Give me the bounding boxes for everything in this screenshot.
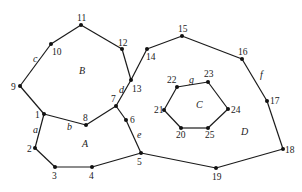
edge-label-g: g [189,74,194,85]
node-label-10: 10 [52,47,62,57]
region-label-b: B [79,65,85,76]
node-15 [180,34,184,38]
node-23 [206,80,210,84]
node-6 [124,118,128,122]
edge-9-10 [20,44,51,86]
edge-10-11 [51,25,81,44]
node-24 [226,107,230,111]
edge-4-5 [92,153,141,167]
region-label-c: C [196,99,203,110]
node-5 [139,151,143,155]
edge-1-9 [20,86,44,114]
node-label-4: 4 [89,171,94,181]
planar-graph-diagram: 1234567891011121314151617181920212223242… [0,0,302,192]
node-label-13: 13 [132,84,142,94]
node-label-25: 25 [205,130,215,140]
edge-2-3 [35,148,55,167]
edge-24-25 [208,109,228,128]
node-label-21: 21 [154,105,164,115]
node-label-8: 8 [83,113,88,123]
edge-label-c: c [33,53,38,64]
region-label-d: D [240,126,249,137]
graph-nodes [18,23,285,170]
node-label-9: 9 [11,82,16,92]
edge-21-22 [164,87,177,110]
node-label-16: 16 [238,47,248,57]
node-8 [84,123,88,127]
edge-label-e: e [137,129,142,140]
edge-16-17 [242,59,267,101]
edge-7-8 [86,106,116,125]
node-label-24: 24 [231,105,241,115]
node-label-5: 5 [137,157,142,167]
node-17 [265,99,269,103]
node-3 [53,165,57,169]
node-label-7: 7 [111,94,116,104]
node-label-18: 18 [285,145,295,155]
node-7 [114,104,118,108]
node-11 [79,23,83,27]
node-4 [90,165,94,169]
edge-label-f: f [260,69,264,80]
node-2 [33,146,37,150]
node-1 [42,112,46,116]
node-label-23: 23 [204,69,214,79]
region-labels: ABCD [79,65,249,149]
edge-23-24 [208,82,228,109]
node-label-3: 3 [52,171,57,181]
node-16 [240,57,244,61]
edge-label-d: d [119,84,125,95]
edge-labels: abcdefg [33,53,264,140]
node-labels: 1234567891011121314151617181920212223242… [11,13,295,182]
node-label-20: 20 [176,130,186,140]
edge-label-a: a [33,124,38,135]
node-22 [175,85,179,89]
edge-label-b: b [67,121,72,132]
region-label-a: A [81,138,89,149]
node-19 [214,166,218,170]
node-label-1: 1 [35,110,40,120]
edge-12-13 [122,49,131,80]
edge-11-12 [81,25,122,49]
edge-17-18 [267,101,283,149]
edge-6-7 [116,106,126,120]
node-9 [18,84,22,88]
edge-18-19 [216,149,283,168]
node-label-15: 15 [178,24,188,34]
node-label-14: 14 [146,52,156,62]
node-13 [129,78,133,82]
edge-15-16 [182,36,242,59]
node-label-22: 22 [167,75,177,85]
edge-8-1 [44,114,86,125]
node-label-11: 11 [77,13,86,23]
node-label-2: 2 [27,144,32,154]
node-label-6: 6 [130,115,135,125]
edge-14-15 [147,36,182,49]
node-label-19: 19 [212,172,222,182]
edge-20-21 [164,110,181,128]
node-label-17: 17 [270,96,280,106]
node-label-12: 12 [118,38,128,48]
node-10 [49,42,53,46]
node-14 [145,47,149,51]
edge-19-5 [141,153,216,168]
edge-13-14 [131,49,147,80]
